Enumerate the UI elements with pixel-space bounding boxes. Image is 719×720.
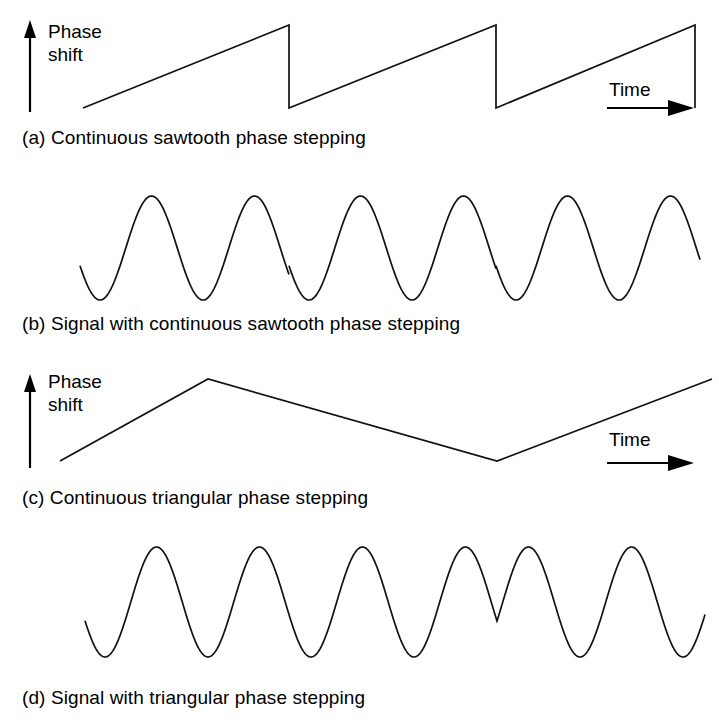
- time-axis-arrowhead: [668, 100, 694, 116]
- triangular-signal-plot: [0, 530, 719, 685]
- vertical-axis-arrowhead: [24, 20, 36, 38]
- phase-shift-label-line1: Phase: [48, 370, 102, 393]
- triangular-signal-waveform: [85, 547, 705, 657]
- panel-b-caption: (b) Signal with continuous sawtooth phas…: [22, 312, 460, 336]
- sawtooth-signal-waveform: [80, 196, 700, 300]
- phase-shift-axis-label: Phase shift: [48, 370, 102, 416]
- phase-shift-axis-label: Phase shift: [48, 20, 102, 66]
- sawtooth-waveform: [83, 25, 695, 108]
- phase-shift-label-line2: shift: [48, 393, 102, 416]
- time-axis-arrowhead: [668, 455, 694, 471]
- phase-shift-label-line2: shift: [48, 43, 102, 66]
- panel-d: (d) Signal with triangular phase steppin…: [0, 530, 719, 720]
- panel-d-caption: (d) Signal with triangular phase steppin…: [22, 686, 365, 710]
- time-axis-label: Time: [609, 78, 651, 101]
- panel-b: (b) Signal with continuous sawtooth phas…: [0, 160, 719, 350]
- panel-a-caption: (a) Continuous sawtooth phase stepping: [22, 126, 366, 150]
- panel-c-caption: (c) Continuous triangular phase stepping: [22, 486, 368, 510]
- phase-shift-label-line1: Phase: [48, 20, 102, 43]
- panel-a: Phase shift Time (a) Continuous sawtooth…: [0, 0, 719, 160]
- sawtooth-phase-plot: [0, 0, 719, 125]
- sawtooth-signal-plot: [0, 160, 719, 310]
- phase-stepping-figure: Phase shift Time (a) Continuous sawtooth…: [0, 0, 719, 720]
- panel-c: Phase shift Time (c) Continuous triangul…: [0, 350, 719, 530]
- time-axis-label: Time: [609, 428, 651, 451]
- triangular-phase-plot: [0, 350, 719, 485]
- vertical-axis-arrowhead: [24, 374, 36, 392]
